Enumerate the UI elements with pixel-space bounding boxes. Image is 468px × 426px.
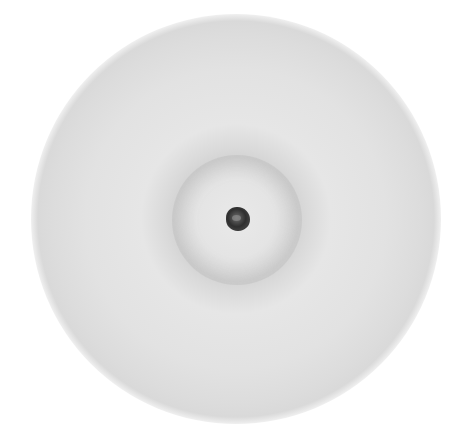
particle-highlight [232,215,241,221]
center-particle [226,207,250,231]
